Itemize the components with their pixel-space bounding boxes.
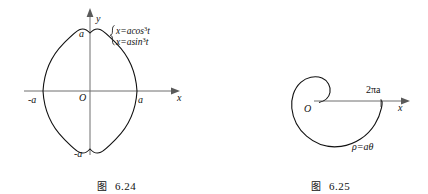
equation-line-1-param: t [147,26,150,36]
figure-caption-624: 图6.24 [0,166,214,194]
figure-sheet: y x O a -a a -a x=acos3t x=asin3t 图6.24 [0,0,428,194]
spiral-tick-label: 2πa [366,84,381,95]
parametric-equation-group: x=acos3t x=asin3t [110,25,150,47]
figure-caption-625: 图6.25 [214,166,428,194]
spiral-origin-label: O [304,103,311,114]
figure-panel-astroid: y x O a -a a -a x=acos3t x=asin3t 图6.24 [0,0,214,194]
y-positive-label: a [79,28,84,39]
caption-number: 6.24 [115,180,136,192]
astroid-plot: y x O a -a a -a x=acos3t x=asin3t [0,0,214,170]
equation-line-1-main: x=acos [115,26,144,36]
equation-brace [110,26,114,45]
caption-number: 6.25 [329,180,350,192]
equation-line-2: x=asin3t [115,36,149,47]
spiral-plot: x O 2πa ρ=aθ [214,0,428,170]
polar-equation-rhs: =aθ [357,141,374,152]
x-positive-label: a [138,94,143,105]
equation-line-2-main: x=asin [115,37,143,47]
spiral-x-axis-label: x [397,102,403,113]
equation-line-2-param: t [146,37,149,47]
spiral-polar-equation: ρ=aθ [351,141,374,152]
y-axis-arrowhead [87,8,94,17]
x-negative-label: -a [28,94,36,105]
origin-label: O [79,92,86,103]
y-negative-label: -a [74,148,82,159]
figure-panel-spiral: x O 2πa ρ=aθ 图6.25 [214,0,428,194]
x-axis-label: x [176,92,182,103]
caption-word: 图 [97,181,108,192]
y-axis-label: y [95,13,101,24]
equation-line-1: x=acos3t [115,25,150,36]
caption-word: 图 [311,181,322,192]
